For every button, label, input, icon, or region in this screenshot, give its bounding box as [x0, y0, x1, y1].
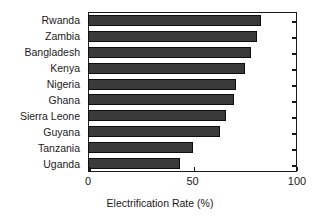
bar — [88, 158, 180, 169]
category-label: Bangladesh — [0, 44, 84, 60]
bar-row — [89, 139, 296, 155]
x-axis-title: Electrification Rate (%) — [0, 198, 320, 209]
bar — [88, 15, 261, 26]
category-label: Uganda — [0, 156, 84, 172]
category-label: Ghana — [0, 92, 84, 108]
bar-row — [89, 108, 296, 124]
x-tick-label: 50 — [186, 176, 198, 187]
category-tick — [292, 101, 296, 103]
bars-layer — [89, 13, 296, 171]
x-tick-label: 0 — [85, 176, 91, 187]
bar-row — [89, 76, 296, 92]
bar — [88, 94, 234, 105]
bar-row — [89, 60, 296, 76]
bar-chart: Rwanda Zambia Bangladesh Kenya Nigeria G… — [0, 0, 320, 223]
bar — [88, 110, 226, 121]
bar-row — [89, 29, 296, 45]
category-tick — [292, 149, 296, 151]
x-tick-labels: 050100 — [88, 176, 297, 192]
bar — [88, 63, 245, 74]
category-label: Sierra Leone — [0, 108, 84, 124]
category-tick — [292, 69, 296, 71]
category-label: Rwanda — [0, 12, 84, 28]
category-label: Tanzania — [0, 140, 84, 156]
category-label: Guyana — [0, 124, 84, 140]
category-label: Zambia — [0, 28, 84, 44]
bar-row — [89, 45, 296, 61]
x-axis-tick — [297, 167, 299, 171]
category-tick — [292, 133, 296, 135]
bar — [88, 47, 251, 58]
bar-row — [89, 13, 296, 29]
bar-row — [89, 155, 296, 171]
x-axis-tick — [194, 167, 196, 171]
bar — [88, 31, 257, 42]
category-label: Kenya — [0, 60, 84, 76]
category-tick — [292, 37, 296, 39]
category-tick — [292, 117, 296, 119]
category-tick — [292, 165, 296, 167]
category-axis: Rwanda Zambia Bangladesh Kenya Nigeria G… — [0, 12, 84, 172]
bar — [88, 79, 236, 90]
bar-row — [89, 92, 296, 108]
bar — [88, 142, 193, 153]
category-tick — [292, 21, 296, 23]
x-axis-tick — [89, 167, 91, 171]
category-tick — [292, 53, 296, 55]
bar — [88, 126, 220, 137]
x-tick-label: 100 — [288, 176, 306, 187]
category-label: Nigeria — [0, 76, 84, 92]
plot-area — [88, 12, 297, 172]
bar-row — [89, 124, 296, 140]
category-tick — [292, 85, 296, 87]
